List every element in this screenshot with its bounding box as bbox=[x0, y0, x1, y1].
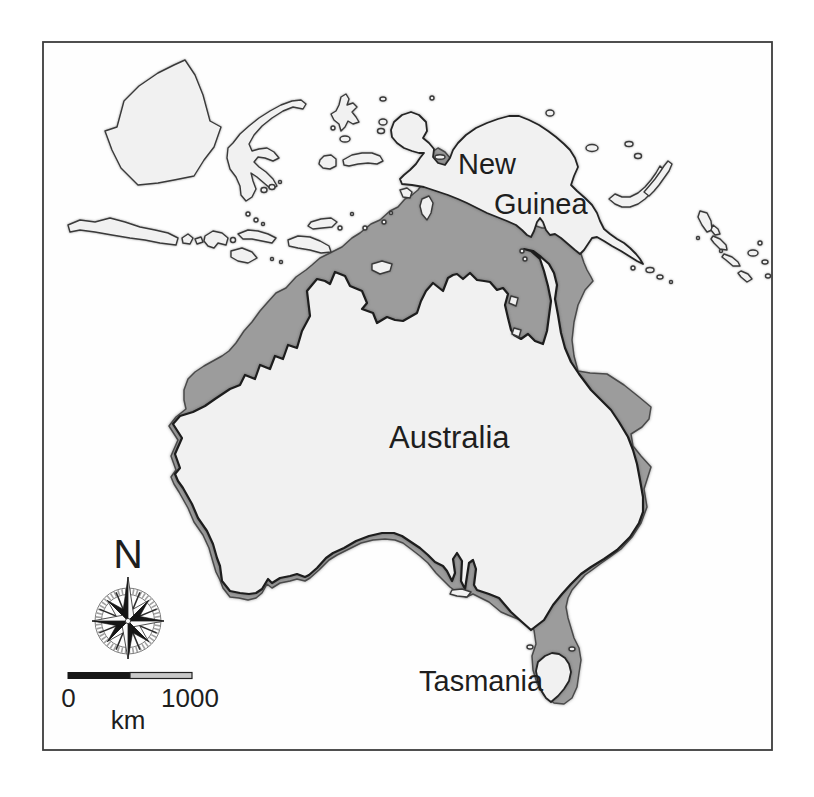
sulawesi-islet bbox=[279, 181, 282, 184]
ternate-islet bbox=[331, 126, 335, 130]
compass-center-dot bbox=[125, 618, 130, 623]
solomon-islet bbox=[766, 274, 771, 278]
torres-strait-islet bbox=[523, 257, 527, 261]
scale-bar-left-segment bbox=[68, 673, 130, 679]
tasmania-label: Tasmania bbox=[419, 665, 544, 697]
solomon-islet bbox=[748, 250, 758, 256]
king-islet bbox=[527, 645, 533, 649]
savu-islet bbox=[271, 258, 274, 261]
morotai-islet bbox=[380, 97, 386, 101]
compass-north-label: N bbox=[113, 531, 143, 577]
bacan-islet bbox=[340, 136, 350, 142]
banda-islet bbox=[363, 226, 367, 230]
torres-strait-islet bbox=[520, 249, 524, 253]
solomon-islet bbox=[697, 237, 700, 240]
waigeo-islet bbox=[379, 119, 387, 125]
manus-islet bbox=[586, 145, 598, 152]
kai-islet bbox=[390, 212, 393, 215]
kai-islet bbox=[382, 220, 386, 224]
banda-islet bbox=[338, 226, 342, 230]
scale-end-label: 1000 bbox=[161, 683, 219, 713]
new-guinea-label-line2: Guinea bbox=[494, 188, 588, 220]
louisiade-islet bbox=[657, 275, 663, 279]
louisiade-islet bbox=[631, 266, 635, 270]
solomon-islet bbox=[758, 241, 762, 245]
sunda-islet bbox=[262, 223, 265, 226]
admiralty-islet bbox=[625, 142, 633, 147]
admiralty-islet bbox=[635, 154, 642, 159]
australia-label: Australia bbox=[389, 420, 510, 455]
sunda-islet bbox=[246, 212, 250, 216]
misool-islet bbox=[378, 129, 385, 134]
sahul-map-figure: New Guinea Australia Tasmania N bbox=[0, 0, 814, 797]
map-canvas: New Guinea Australia Tasmania N bbox=[0, 0, 814, 797]
solomon-islet bbox=[762, 260, 768, 264]
scale-bar-right-segment bbox=[130, 673, 192, 679]
louisiade-islet bbox=[670, 281, 673, 284]
scale-start-label: 0 bbox=[61, 683, 75, 713]
scale-unit-label: km bbox=[111, 705, 146, 735]
komodo-islet bbox=[231, 238, 236, 243]
sulawesi-islet bbox=[261, 188, 267, 193]
flinders-islet bbox=[569, 647, 575, 651]
lombok-islet bbox=[195, 237, 203, 244]
solomon-islet bbox=[720, 250, 723, 253]
sulawesi-islet bbox=[269, 185, 275, 190]
yapen-islet bbox=[435, 155, 445, 159]
louisiade-islet bbox=[646, 268, 654, 273]
biak-islet bbox=[430, 96, 434, 100]
banda-islet bbox=[351, 213, 354, 216]
new-guinea-label-line1: New bbox=[458, 148, 517, 180]
savu-islet bbox=[280, 261, 283, 264]
sunda-islet bbox=[254, 218, 258, 222]
karkar-islet bbox=[546, 110, 554, 116]
